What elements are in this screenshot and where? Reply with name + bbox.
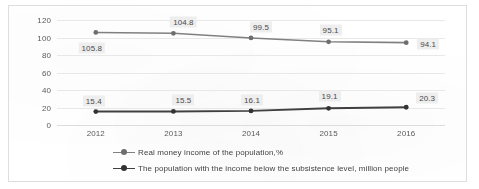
x-axis-tick: 2015: [319, 129, 337, 138]
data-point-marker[interactable]: [171, 109, 176, 114]
legend-item-real-money-income[interactable]: Real money income of the population,%: [9, 144, 468, 160]
line-marker-icon: [113, 148, 135, 157]
data-point-label: 105.8: [79, 43, 106, 54]
data-point-label: 15.4: [83, 95, 105, 106]
data-point-label: 95.1: [320, 24, 342, 35]
chart-legend: Real money income of the population,% Th…: [9, 144, 468, 176]
data-point-marker[interactable]: [249, 109, 254, 114]
x-axis-tick: 2013: [164, 129, 182, 138]
data-point-marker[interactable]: [326, 106, 331, 111]
y-axis-tick: 60: [42, 68, 51, 77]
data-point-label: 16.1: [241, 94, 263, 105]
y-axis-tick: 120: [37, 16, 51, 25]
data-point-label: 99.5: [250, 21, 272, 32]
data-point-marker[interactable]: [326, 39, 331, 44]
plot-area: 020406080100120 105.8104.899.595.194.115…: [57, 20, 445, 125]
x-axis-tick-labels: 20122013201420152016: [57, 129, 445, 143]
data-point-marker[interactable]: [171, 31, 176, 36]
data-point-marker[interactable]: [404, 40, 409, 45]
data-point-label: 20.3: [416, 93, 438, 104]
series-lines: [57, 20, 445, 125]
data-point-label: 15.5: [172, 95, 194, 106]
data-point-label: 19.1: [319, 91, 341, 102]
data-point-marker[interactable]: [93, 109, 98, 114]
y-axis-tick: 20: [42, 103, 51, 112]
y-axis-tick: 40: [42, 86, 51, 95]
gridline: [57, 125, 445, 126]
data-point-marker[interactable]: [249, 36, 254, 41]
chart-frame: 020406080100120 105.8104.899.595.194.115…: [8, 5, 467, 182]
y-axis-tick: 100: [37, 33, 51, 42]
x-axis-tick: 2016: [397, 129, 415, 138]
legend-item-label: Real money income of the population,%: [138, 148, 283, 157]
legend-item-label: The population with the income below the…: [138, 164, 409, 173]
legend-item-population-below-subsistence[interactable]: The population with the income below the…: [9, 160, 468, 176]
x-axis-tick: 2012: [87, 129, 105, 138]
data-point-label: 104.8: [170, 17, 197, 28]
line-marker-icon: [113, 164, 135, 173]
y-axis-tick: 80: [42, 51, 51, 60]
data-point-label: 94.1: [417, 38, 439, 49]
x-axis-tick: 2014: [242, 129, 260, 138]
data-point-marker[interactable]: [404, 105, 409, 110]
y-axis-tick: 0: [46, 121, 51, 130]
data-point-marker[interactable]: [93, 30, 98, 35]
